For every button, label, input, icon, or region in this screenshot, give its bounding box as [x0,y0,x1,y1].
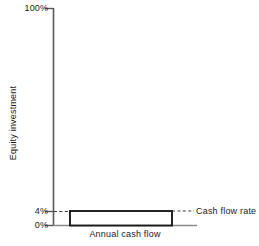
bar-annual-cash-flow [70,211,172,226]
x-axis-title: Annual cash flow [53,229,197,239]
y-axis-tick-label-0: 0% [0,221,48,230]
figure-cash-flow-diagram: 100% 4% 0% Equity investment Annual cash… [0,0,259,246]
y-axis-tick-label-4: 4% [0,207,48,216]
callout-label-cash-flow-rate: Cash flow rate [196,206,256,216]
y-axis-title: Equity investment [8,63,18,183]
y-axis-tick-label-100: 100% [0,4,48,13]
